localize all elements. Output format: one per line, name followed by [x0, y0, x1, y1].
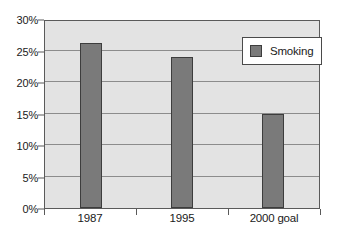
- y-axis: 0%5%10%15%20%25%30%: [0, 20, 38, 209]
- legend: Smoking: [242, 37, 322, 65]
- y-tick-label: 5%: [23, 172, 39, 184]
- x-tick-mark: [136, 209, 137, 215]
- y-tick-mark: [38, 20, 44, 21]
- y-tick-label: 15%: [17, 109, 38, 121]
- legend-swatch-smoking: [250, 45, 262, 57]
- bar-slot: [45, 21, 136, 208]
- x-tick-label: 1987: [44, 212, 136, 234]
- x-tick-mark: [320, 209, 321, 215]
- y-tick-label: 10%: [17, 140, 38, 152]
- x-tick-mark: [228, 209, 229, 215]
- y-tick-mark: [38, 51, 44, 52]
- x-tick-label: 1995: [136, 212, 228, 234]
- y-tick-mark: [38, 177, 44, 178]
- y-tick-mark: [38, 146, 44, 147]
- x-axis: 198719952000 goal: [44, 212, 320, 234]
- y-tick-label: 0%: [23, 203, 39, 215]
- bar-chart: 0%5%10%15%20%25%30% 198719952000 goal Sm…: [0, 0, 340, 244]
- bar: [262, 114, 284, 209]
- bar-slot: [136, 21, 227, 208]
- bar: [80, 43, 102, 208]
- y-tick-mark: [38, 83, 44, 84]
- y-tick-label: 30%: [17, 14, 38, 26]
- y-tick-label: 20%: [17, 77, 38, 89]
- y-tick-mark: [38, 114, 44, 115]
- x-tick-mark: [44, 209, 45, 215]
- x-tick-label: 2000 goal: [228, 212, 320, 234]
- legend-label-smoking: Smoking: [270, 45, 313, 57]
- y-tick-label: 25%: [17, 46, 38, 58]
- bar: [171, 57, 193, 208]
